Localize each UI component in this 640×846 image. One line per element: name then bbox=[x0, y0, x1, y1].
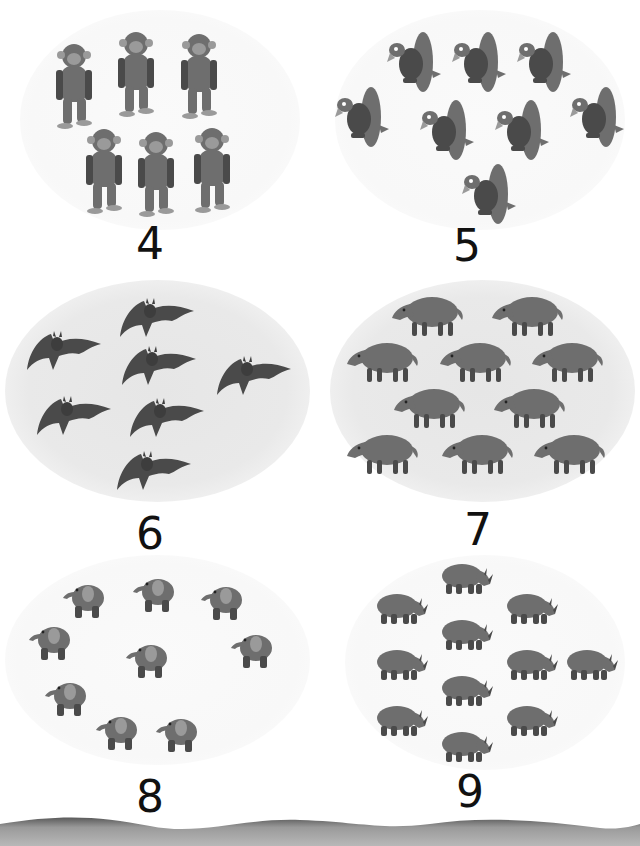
rhinoceros-icon bbox=[505, 702, 559, 742]
numeral-label: 9 bbox=[440, 770, 500, 814]
rhinoceros-icon bbox=[505, 646, 559, 686]
rhinoceros-icon bbox=[375, 590, 429, 630]
rhinoceros-icon bbox=[375, 646, 429, 686]
rhinoceros-icon bbox=[440, 728, 494, 768]
rhinoceros-icon bbox=[565, 646, 619, 686]
panel-rhinoceroses: 9 bbox=[0, 0, 640, 846]
rhinoceros-icon bbox=[440, 560, 494, 600]
decorative-wave-band bbox=[0, 810, 640, 846]
rhinoceros-icon bbox=[375, 702, 429, 742]
rhinoceros-icon bbox=[440, 616, 494, 656]
rhinoceros-icon bbox=[505, 590, 559, 630]
rhinoceros-icon bbox=[440, 672, 494, 712]
